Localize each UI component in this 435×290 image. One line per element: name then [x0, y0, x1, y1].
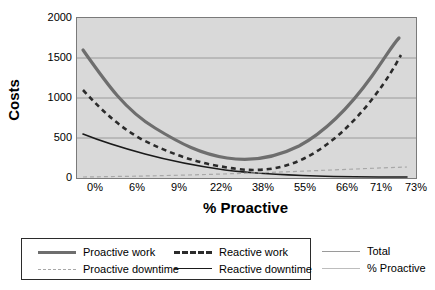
legend-label: Reactive downtime [219, 263, 312, 275]
legend-item-reactive-downtime[interactable]: Reactive downtime [174, 261, 312, 277]
cost-vs-proactive-line-chart: Costs 2000 1500 1000 500 0 0% [0, 0, 435, 290]
legend-label: Proactive downtime [83, 263, 179, 275]
x-tick-label: 38% [241, 181, 285, 193]
legend-item-proactive-work[interactable]: Proactive work [38, 244, 155, 260]
plot-area [76, 17, 417, 179]
legend-label: Reactive work [219, 246, 288, 258]
legend-outside-group: Total % Proactive [322, 238, 434, 280]
legend-item-proactive-downtime[interactable]: Proactive downtime [38, 261, 179, 277]
legend-label: Proactive work [83, 246, 155, 258]
thin-solid-gray-line-icon [322, 245, 360, 257]
y-tick-label: 0 [32, 172, 72, 183]
thick-dashed-black-line-icon [174, 246, 212, 258]
x-tick-label: 0% [73, 181, 117, 193]
series-line-reactive-downtime [83, 134, 407, 177]
y-tick-label: 1000 [32, 92, 72, 103]
legend-label: Total [367, 245, 390, 257]
legend-box: Proactive work Proactive downtime Reacti… [21, 238, 311, 280]
y-tick-label: 2000 [32, 12, 72, 23]
x-tick-label: 6% [115, 181, 159, 193]
thin-solid-lightgray-line-icon [322, 262, 360, 274]
plot-svg [77, 18, 416, 178]
legend-label: % Proactive [367, 262, 426, 274]
x-axis-tick-labels: 0% 6% 9% 22% 38% 55% 66% 71% 73% [76, 181, 415, 197]
legend-item-total[interactable]: Total [322, 243, 390, 259]
thick-solid-gray-line-icon [38, 246, 76, 258]
y-tick-label: 1500 [32, 52, 72, 63]
y-axis-title: Costs [6, 60, 22, 140]
x-tick-label: 73% [394, 181, 435, 193]
x-tick-label: 55% [283, 181, 327, 193]
legend-item-pct-proactive[interactable]: % Proactive [322, 260, 426, 276]
thin-dashed-gray-line-icon [38, 263, 76, 275]
x-tick-label: 9% [157, 181, 201, 193]
series-line-reactive-work [83, 55, 401, 170]
y-tick-label: 500 [32, 132, 72, 143]
thin-solid-black-line-icon [174, 263, 212, 275]
x-axis-title: % Proactive [76, 199, 415, 216]
gridlines [77, 58, 416, 138]
x-tick-label: 22% [199, 181, 243, 193]
series-line-proactive-work [83, 38, 399, 160]
legend-item-reactive-work[interactable]: Reactive work [174, 244, 288, 260]
